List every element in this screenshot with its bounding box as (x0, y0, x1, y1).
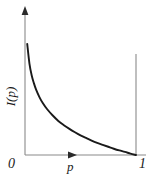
x-axis-arrowhead (68, 152, 77, 159)
y-axis-arrowhead (22, 6, 29, 15)
figure-container: I(p) p 0 1 (0, 0, 154, 179)
plot-canvas (0, 0, 154, 179)
x-axis-label: p (67, 160, 74, 173)
x-tick-label-one: 1 (139, 157, 146, 171)
x-tick-label-zero: 0 (8, 157, 15, 171)
information-curve (27, 44, 136, 155)
y-axis-label: I(p) (4, 87, 17, 107)
